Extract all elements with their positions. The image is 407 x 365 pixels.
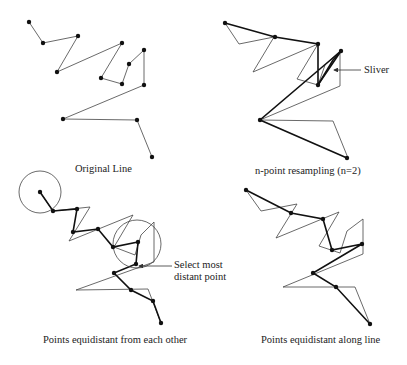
select-distant-label-2: distant point: [174, 271, 226, 283]
vertex-dot: [334, 285, 338, 289]
vertex-dot: [61, 117, 65, 121]
vertex-dot: [99, 76, 103, 80]
vertex-dot: [360, 242, 364, 246]
vertex-dot: [316, 42, 320, 46]
vertex-dot: [51, 209, 55, 213]
vertex-dot: [96, 227, 100, 231]
sliver-label: Sliver: [364, 64, 389, 76]
caption-equidistant-each-other: Points equidistant from each other: [43, 334, 187, 346]
vertex-dot: [55, 70, 59, 74]
vertex-dot: [75, 207, 79, 211]
vertex-dot: [76, 34, 80, 38]
vertex-dot: [321, 217, 325, 221]
vertex-dot: [129, 288, 133, 292]
vertex-dot: [112, 271, 116, 275]
vertex-dot: [244, 188, 248, 192]
vertex-dot: [135, 118, 139, 122]
vertex-dot: [289, 211, 293, 215]
vertex-dot: [142, 83, 146, 87]
original-line: [40, 192, 161, 323]
select-distant-label-1: Select most: [174, 259, 223, 271]
vertex-dot: [339, 49, 343, 53]
vertex-dot: [330, 248, 334, 252]
vertex-dot: [38, 190, 42, 194]
vertex-dot: [120, 41, 124, 45]
vertex-dot: [345, 156, 349, 160]
vertex-dot: [368, 322, 372, 326]
resampled-line: [40, 192, 161, 323]
original-line: [225, 23, 348, 158]
vertex-dot: [27, 20, 31, 24]
vertex-dot: [111, 245, 115, 249]
vertex-dot: [258, 118, 262, 122]
original-line: [29, 22, 152, 157]
vertex-dot: [142, 48, 146, 52]
vertex-dot: [316, 83, 320, 87]
caption-original-line: Original Line: [75, 163, 132, 175]
vertex-dot: [127, 62, 131, 66]
vertex-dot: [311, 271, 315, 275]
vertex-dot: [223, 21, 227, 25]
vertex-dot: [41, 41, 45, 45]
vertex-dot: [159, 321, 163, 325]
vertex-dot: [151, 299, 155, 303]
vertex-dot: [136, 240, 140, 244]
caption-n-point-resampling: n-point resampling (n=2): [255, 165, 361, 177]
vertex-dot: [120, 82, 124, 86]
vertex-dot: [134, 262, 138, 266]
vertex-dot: [71, 230, 75, 234]
diagram-canvas: [0, 0, 407, 365]
vertex-dot: [150, 155, 154, 159]
caption-equidistant-along-line: Points equidistant along line: [261, 334, 380, 346]
search-circles: [19, 171, 161, 268]
vertex-dot: [273, 35, 277, 39]
